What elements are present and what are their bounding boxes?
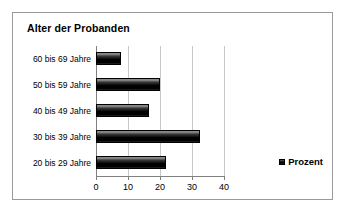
legend-item-prozent: Prozent bbox=[288, 156, 323, 167]
gridline-40 bbox=[224, 46, 225, 176]
x-tick-30 bbox=[192, 176, 193, 180]
chart-legend: Prozent bbox=[279, 156, 323, 167]
category-label: 50 bis 59 Jahre bbox=[33, 80, 91, 90]
x-tick-label: 20 bbox=[155, 182, 165, 192]
bar-row: 60 bis 69 Jahre bbox=[96, 46, 224, 72]
bar-prozent[interactable] bbox=[96, 156, 166, 169]
bar-series-prozent: 60 bis 69 Jahre50 bis 59 Jahre40 bis 49 … bbox=[96, 46, 224, 176]
bar-row: 40 bis 49 Jahre bbox=[96, 98, 224, 124]
category-label: 40 bis 49 Jahre bbox=[33, 106, 91, 116]
bar-row: 30 bis 39 Jahre bbox=[96, 124, 224, 150]
category-label: 20 bis 29 Jahre bbox=[33, 158, 91, 168]
category-label: 30 bis 39 Jahre bbox=[33, 132, 91, 142]
x-tick-label: 40 bbox=[219, 182, 229, 192]
bar-row: 50 bis 59 Jahre bbox=[96, 72, 224, 98]
x-tick-label: 0 bbox=[93, 182, 98, 192]
bar-prozent[interactable] bbox=[96, 78, 160, 91]
chart-title: Alter der Probanden bbox=[27, 22, 130, 34]
bar-prozent[interactable] bbox=[96, 104, 149, 117]
category-label: 60 bis 69 Jahre bbox=[33, 54, 91, 64]
x-tick-40 bbox=[224, 176, 225, 180]
plot-area: 60 bis 69 Jahre50 bis 59 Jahre40 bis 49 … bbox=[96, 46, 224, 176]
x-tick-20 bbox=[160, 176, 161, 180]
bar-prozent[interactable] bbox=[96, 130, 200, 143]
x-tick-10 bbox=[128, 176, 129, 180]
prozent-series-swatch bbox=[279, 159, 285, 165]
chart-frame: Alter der Probanden 60 bis 69 Jahre50 bi… bbox=[12, 12, 333, 200]
bar-row: 20 bis 29 Jahre bbox=[96, 150, 224, 176]
bar-prozent[interactable] bbox=[96, 52, 121, 65]
x-tick-0 bbox=[96, 176, 97, 180]
x-tick-label: 30 bbox=[187, 182, 197, 192]
x-tick-label: 10 bbox=[123, 182, 133, 192]
